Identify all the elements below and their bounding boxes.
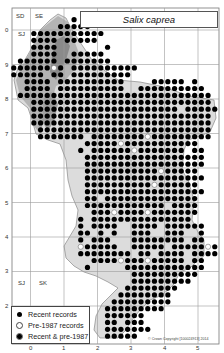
recent-record-dot xyxy=(31,31,36,36)
recent-record-dot xyxy=(159,148,164,153)
recent-record-dot xyxy=(172,224,177,229)
recent-record-dot xyxy=(145,86,150,91)
recent-record-dot xyxy=(138,237,143,242)
recent-record-dot xyxy=(172,100,177,105)
recent-record-dot xyxy=(105,127,110,132)
recent-record-dot xyxy=(92,127,97,132)
recent-record-dot xyxy=(118,306,123,311)
recent-record-dot xyxy=(71,93,76,98)
recent-record-dot xyxy=(185,100,190,105)
recent-record-dot xyxy=(145,148,150,153)
recent-record-dot xyxy=(165,265,170,270)
recent-record-dot xyxy=(38,58,43,63)
recent-record-dot xyxy=(65,127,70,132)
recent-record-dot xyxy=(172,272,177,277)
recent-record-dot xyxy=(172,120,177,125)
recent-record-dot xyxy=(38,72,43,77)
recent-record-dot xyxy=(92,258,97,263)
recent-record-dot xyxy=(132,93,137,98)
recent-record-dot xyxy=(159,279,164,284)
recent-record-dot xyxy=(65,31,70,36)
recent-record-dot xyxy=(31,100,36,105)
recent-record-dot xyxy=(132,196,137,201)
recent-record-dot xyxy=(165,285,170,290)
recent-record-dot xyxy=(45,38,50,43)
recent-record-dot xyxy=(199,258,204,263)
recent-record-dot xyxy=(192,210,197,215)
distribution-map xyxy=(0,0,224,353)
recent-record-dot xyxy=(92,52,97,57)
recent-record-dot xyxy=(18,65,23,70)
recent-record-dot xyxy=(185,168,190,173)
recent-record-dot xyxy=(125,196,130,201)
recent-record-dot xyxy=(185,134,190,139)
x-tick: 4 xyxy=(163,345,166,351)
recent-record-dot xyxy=(152,217,157,222)
recent-record-dot xyxy=(98,230,103,235)
recent-record-dot xyxy=(199,251,204,256)
recent-record-dot xyxy=(165,189,170,194)
recent-record-dot xyxy=(165,127,170,132)
recent-record-dot xyxy=(118,148,123,153)
recent-record-dot xyxy=(165,251,170,256)
recent-record-dot xyxy=(199,134,204,139)
recent-record-dot xyxy=(172,203,177,208)
recent-record-dot xyxy=(31,65,36,70)
y-tick: 9 xyxy=(5,62,8,68)
recent-record-dot xyxy=(185,189,190,194)
recent-record-dot xyxy=(125,168,130,173)
recent-record-dot xyxy=(118,72,123,77)
recent-record-dot xyxy=(125,189,130,194)
recent-record-dot xyxy=(165,168,170,173)
recent-record-dot xyxy=(138,107,143,112)
recent-record-dot xyxy=(165,141,170,146)
recent-record-dot xyxy=(159,79,164,84)
recent-record-dot xyxy=(165,134,170,139)
recent-record-dot xyxy=(172,182,177,187)
recent-record-dot xyxy=(65,113,70,118)
recent-record-dot xyxy=(125,72,130,77)
recent-record-dot xyxy=(159,113,164,118)
recent-record-dot xyxy=(105,251,110,256)
recent-record-dot xyxy=(105,182,110,187)
recent-record-dot xyxy=(112,79,117,84)
pre-1987-record-dot xyxy=(51,65,56,70)
recent-record-dot xyxy=(179,258,184,263)
recent-record-dot xyxy=(31,38,36,43)
recent-record-dot xyxy=(78,217,83,222)
recent-record-dot xyxy=(65,93,70,98)
recent-record-dot xyxy=(132,299,137,304)
recent-record-dot xyxy=(132,155,137,160)
recent-record-dot xyxy=(172,86,177,91)
recent-record-dot xyxy=(98,203,103,208)
recent-record-dot xyxy=(138,189,143,194)
recent-record-dot xyxy=(172,258,177,263)
recent-record-dot xyxy=(71,31,76,36)
recent-record-dot xyxy=(118,155,123,160)
recent-record-dot xyxy=(125,258,130,263)
recent-record-dot xyxy=(78,31,83,36)
recent-record-dot xyxy=(65,134,70,139)
recent-record-dot xyxy=(159,272,164,277)
recent-record-dot xyxy=(78,148,83,153)
recent-record-dot xyxy=(92,217,97,222)
square-label-se: SE xyxy=(35,13,43,19)
recent-record-dot xyxy=(65,107,70,112)
recent-record-dot xyxy=(185,182,190,187)
recent-record-dot xyxy=(125,100,130,105)
recent-record-dot xyxy=(132,265,137,270)
recent-record-dot xyxy=(112,313,117,318)
recent-record-dot xyxy=(112,182,117,187)
recent-record-dot xyxy=(105,210,110,215)
recent-record-dot xyxy=(98,113,103,118)
recent-record-dot xyxy=(159,175,164,180)
recent-record-dot xyxy=(179,237,184,242)
recent-record-dot xyxy=(172,155,177,160)
recent-record-dot xyxy=(98,217,103,222)
recent-record-dot xyxy=(112,86,117,91)
recent-record-dot xyxy=(165,113,170,118)
recent-record-dot xyxy=(152,258,157,263)
recent-record-dot xyxy=(118,217,123,222)
recent-record-dot xyxy=(118,107,123,112)
recent-record-dot xyxy=(58,31,63,36)
